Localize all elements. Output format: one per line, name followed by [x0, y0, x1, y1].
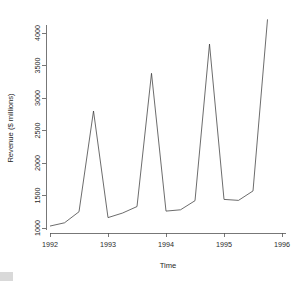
- y-tick-label: 3500: [33, 58, 42, 74]
- x-tick-label: 1992: [42, 240, 58, 249]
- x-tick-label: 1995: [216, 240, 232, 249]
- y-tick-label: 2500: [33, 123, 42, 139]
- chart-figure: 1000150020002500300035004000 Revenue ($ …: [0, 0, 296, 281]
- x-axis: 19921993199419951996 Time: [42, 233, 290, 270]
- y-axis-title: Revenue ($ millions): [6, 93, 15, 163]
- x-axis-ticks: 19921993199419951996: [42, 233, 290, 249]
- y-tick-label: 4000: [33, 25, 42, 41]
- corner-artifact: [0, 272, 13, 281]
- y-tick-label: 3000: [33, 90, 42, 106]
- x-tick-label: 1996: [274, 240, 290, 249]
- y-tick-label: 1500: [33, 188, 42, 204]
- y-axis-ticks: 1000150020002500300035004000: [33, 25, 46, 236]
- x-axis-title: Time: [160, 261, 177, 270]
- revenue-time-series-chart: 1000150020002500300035004000 Revenue ($ …: [0, 0, 296, 281]
- y-tick-label: 1000: [33, 220, 42, 236]
- y-axis: 1000150020002500300035004000 Revenue ($ …: [6, 25, 46, 236]
- x-tick-label: 1994: [158, 240, 174, 249]
- y-tick-label: 2000: [33, 155, 42, 171]
- plot-area: [50, 19, 268, 226]
- revenue-series-line: [50, 19, 268, 226]
- x-tick-label: 1993: [100, 240, 116, 249]
